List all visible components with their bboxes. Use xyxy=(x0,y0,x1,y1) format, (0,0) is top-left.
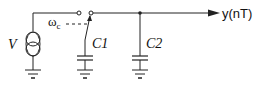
circuit-diagram: V ωc C1 y(nT) C2 xyxy=(0,0,257,86)
wire-top-right xyxy=(93,10,220,17)
ground-icon xyxy=(132,70,148,78)
source-label: V xyxy=(8,37,18,52)
output-label: y(nT) xyxy=(222,6,252,21)
capacitor-c1 xyxy=(77,40,93,70)
c1-label: C1 xyxy=(92,36,108,51)
switch xyxy=(66,11,93,40)
ground-icon xyxy=(25,70,41,78)
switch-control-label: ωc xyxy=(48,14,61,31)
ground-icon xyxy=(77,70,93,78)
current-source xyxy=(26,32,40,70)
c2-label: C2 xyxy=(146,36,162,51)
